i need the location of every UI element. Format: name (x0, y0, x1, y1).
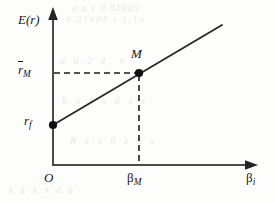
x-axis-arrowhead-icon (245, 160, 258, 170)
point-label-m: M (131, 46, 142, 62)
x-axis-title: βi (246, 170, 255, 187)
beta-m-subscript: M (134, 177, 142, 187)
y-axis-title: E(r) (18, 12, 40, 28)
y-tick-label-r-f: rf (24, 113, 32, 130)
origin-label: O (44, 170, 53, 186)
sml-figure: a u x 0.01005 0.01005 i 1.1u a 0.2 4, n … (0, 0, 275, 203)
y-axis-arrowhead-icon (48, 7, 58, 20)
data-point-m (135, 69, 143, 77)
r-bar-subscript: M (23, 69, 31, 79)
r-f-subscript: f (29, 120, 32, 130)
data-point-rf (49, 121, 57, 129)
beta-base: β (246, 170, 253, 185)
r-base-with-overbar: r (18, 62, 23, 78)
beta-i-subscript: i (253, 177, 256, 187)
y-tick-label-r-bar-m: rM (18, 62, 31, 79)
x-tick-label-beta-m: βM (127, 170, 141, 187)
beta-base: β (127, 170, 134, 185)
